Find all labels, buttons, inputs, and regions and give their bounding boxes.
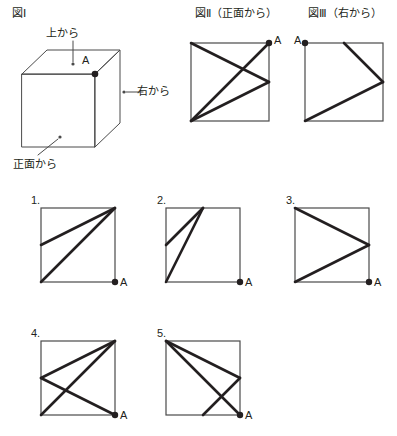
- option-5-line-topleft-to-rightmid: [166, 341, 240, 378]
- option-5-vertex-dot-a: [237, 412, 243, 418]
- option-5-drawing[interactable]: [0, 0, 397, 436]
- option-5-line-topleft-to-bottomright: [166, 341, 240, 415]
